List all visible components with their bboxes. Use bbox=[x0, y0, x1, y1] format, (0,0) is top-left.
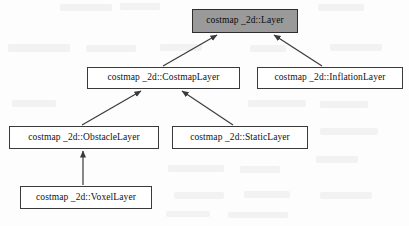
class-diagram-canvas: costmap _2d::Layer costmap _2d::CostmapL… bbox=[0, 0, 409, 226]
class-node-voxel-layer[interactable]: costmap _2d::VoxelLayer bbox=[20, 186, 152, 209]
class-node-layer-label: costmap _2d::Layer bbox=[206, 16, 284, 26]
class-node-obstacle-layer-label: costmap _2d::ObstacleLayer bbox=[28, 133, 140, 143]
class-node-static-layer[interactable]: costmap _2d::StaticLayer bbox=[172, 126, 308, 149]
class-node-costmap-layer-label: costmap _2d::CostmapLayer bbox=[108, 73, 220, 83]
edge-static-to-costmap bbox=[182, 91, 233, 125]
class-node-voxel-layer-label: costmap _2d::VoxelLayer bbox=[36, 193, 136, 203]
edge-obstacle-to-costmap bbox=[82, 91, 141, 125]
class-node-inflation-layer[interactable]: costmap _2d::InflationLayer bbox=[257, 67, 403, 89]
class-node-inflation-layer-label: costmap _2d::InflationLayer bbox=[274, 73, 385, 83]
edge-inflation-to-layer bbox=[274, 35, 322, 66]
edge-costmap-to-layer bbox=[163, 35, 217, 66]
class-node-static-layer-label: costmap _2d::StaticLayer bbox=[190, 133, 290, 143]
class-node-costmap-layer[interactable]: costmap _2d::CostmapLayer bbox=[87, 67, 240, 89]
class-node-layer[interactable]: costmap _2d::Layer bbox=[192, 9, 298, 33]
class-node-obstacle-layer[interactable]: costmap _2d::ObstacleLayer bbox=[9, 126, 159, 149]
